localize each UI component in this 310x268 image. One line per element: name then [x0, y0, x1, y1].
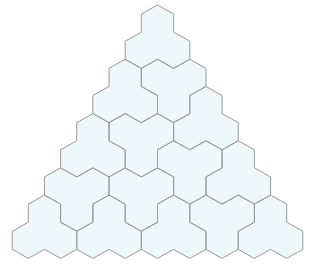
trihex-tiling-diagram: [0, 0, 310, 268]
